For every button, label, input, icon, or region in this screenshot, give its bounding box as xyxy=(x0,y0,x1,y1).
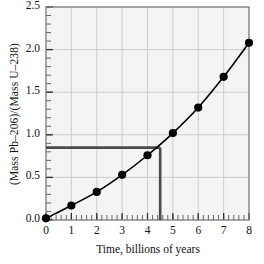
data-point xyxy=(42,214,50,222)
data-point xyxy=(220,73,228,81)
x-tick-label: 2 xyxy=(87,224,107,236)
x-tick-label: 8 xyxy=(239,224,259,236)
x-axis-label: Time, billions of years xyxy=(46,243,250,255)
x-tick-label: 1 xyxy=(61,224,81,236)
data-point xyxy=(118,171,126,179)
data-point xyxy=(245,39,253,47)
x-tick-label: 0 xyxy=(36,224,56,236)
x-tick-label: 6 xyxy=(188,224,208,236)
x-tick-label: 4 xyxy=(138,224,158,236)
data-point xyxy=(194,103,202,111)
x-tick-label: 7 xyxy=(214,224,234,236)
data-point xyxy=(93,188,101,196)
x-tick-label: 3 xyxy=(112,224,132,236)
data-point xyxy=(143,151,151,159)
x-tick-label: 5 xyxy=(163,224,183,236)
chart-figure: 0.00.51.01.52.02.5 012345678 (Mass Pb–20… xyxy=(0,0,264,264)
y-axis-label: (Mass Pb–206)/(Mass U–238) xyxy=(8,4,20,224)
data-point xyxy=(67,201,75,209)
data-point xyxy=(169,129,177,137)
